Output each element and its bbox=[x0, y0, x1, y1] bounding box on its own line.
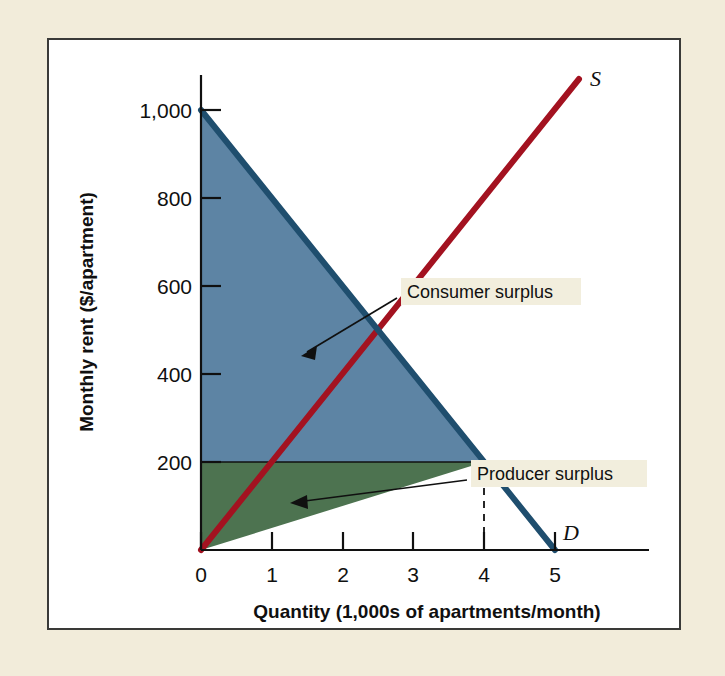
x-axis-ticks bbox=[201, 532, 555, 550]
y-tick-label-600: 600 bbox=[157, 275, 192, 298]
y-tick-label-200: 200 bbox=[157, 451, 192, 474]
x-tick-label-4: 4 bbox=[478, 563, 490, 586]
demand-curve-label: D bbox=[562, 520, 579, 545]
y-tick-label-800: 800 bbox=[157, 187, 192, 210]
x-tick-label-1: 1 bbox=[266, 563, 278, 586]
x-tick-label-2: 2 bbox=[337, 563, 349, 586]
producer-surplus-label: Producer surplus bbox=[477, 464, 613, 484]
y-axis-title: Monthly rent ($/apartment) bbox=[76, 192, 97, 432]
page-background: 1,000 800 600 400 200 0 1 2 3 4 5 Quanti… bbox=[0, 0, 725, 676]
y-tick-label-400: 400 bbox=[157, 363, 192, 386]
consumer-surplus-label: Consumer surplus bbox=[407, 282, 553, 302]
supply-demand-chart: 1,000 800 600 400 200 0 1 2 3 4 5 Quanti… bbox=[49, 40, 683, 632]
x-axis-title: Quantity (1,000s of apartments/month) bbox=[253, 601, 600, 622]
supply-curve-label: S bbox=[590, 66, 601, 91]
x-tick-label-3: 3 bbox=[407, 563, 419, 586]
figure-panel: 1,000 800 600 400 200 0 1 2 3 4 5 Quanti… bbox=[47, 38, 681, 630]
y-tick-label-1000: 1,000 bbox=[139, 99, 192, 122]
x-tick-label-0: 0 bbox=[195, 563, 207, 586]
x-tick-label-5: 5 bbox=[549, 563, 561, 586]
